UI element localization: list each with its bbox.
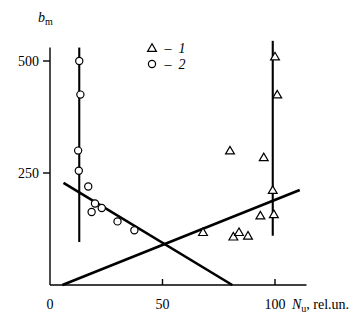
point-series-1-4 [256,211,265,219]
legend-label-1: 1 [179,41,186,56]
point-series-2-4 [85,183,92,190]
x-tick-label-0: 0 [47,297,54,312]
fit-lines [62,183,299,285]
point-series-1-8 [226,146,235,154]
legend-marker-1 [148,44,157,52]
axis-titles: bmNu, rel.un. [38,10,349,314]
point-series-2-8 [114,218,121,225]
point-series-1-9 [273,90,282,98]
x-tick-label-100: 100 [265,297,286,312]
point-series-1-2 [235,228,244,236]
point-series-2-1 [77,91,84,98]
legend-label-2: 2 [179,57,186,72]
point-series-1-3 [244,232,253,240]
y-tick-label-500: 500 [18,54,39,69]
y-axis-title: bm [38,10,53,27]
legend-marker-2 [148,60,155,67]
point-series-1-5 [269,210,278,218]
point-series-1-6 [268,186,277,194]
legend-dash-1: – [164,41,173,56]
point-series-2-9 [131,227,138,234]
y-tick-label-250: 250 [18,166,39,181]
data-points [75,52,282,240]
point-series-1-7 [259,153,268,161]
x-tick-label-50: 50 [156,297,170,312]
legend: –1–2 [148,41,186,72]
x-axis-title: Nu, rel.un. [291,297,349,314]
point-series-2-2 [75,147,82,154]
point-series-2-6 [88,208,95,215]
point-series-2-5 [91,200,98,207]
point-series-2-3 [75,167,82,174]
tick-labels: 250500050100 [18,54,286,312]
figure: 250500050100 –1–2 bmNu, rel.un. [0,0,361,322]
point-series-2-7 [98,204,105,211]
scatter-plot: 250500050100 –1–2 bmNu, rel.un. [0,0,361,322]
point-series-2-0 [76,57,83,64]
legend-dash-2: – [164,57,173,72]
